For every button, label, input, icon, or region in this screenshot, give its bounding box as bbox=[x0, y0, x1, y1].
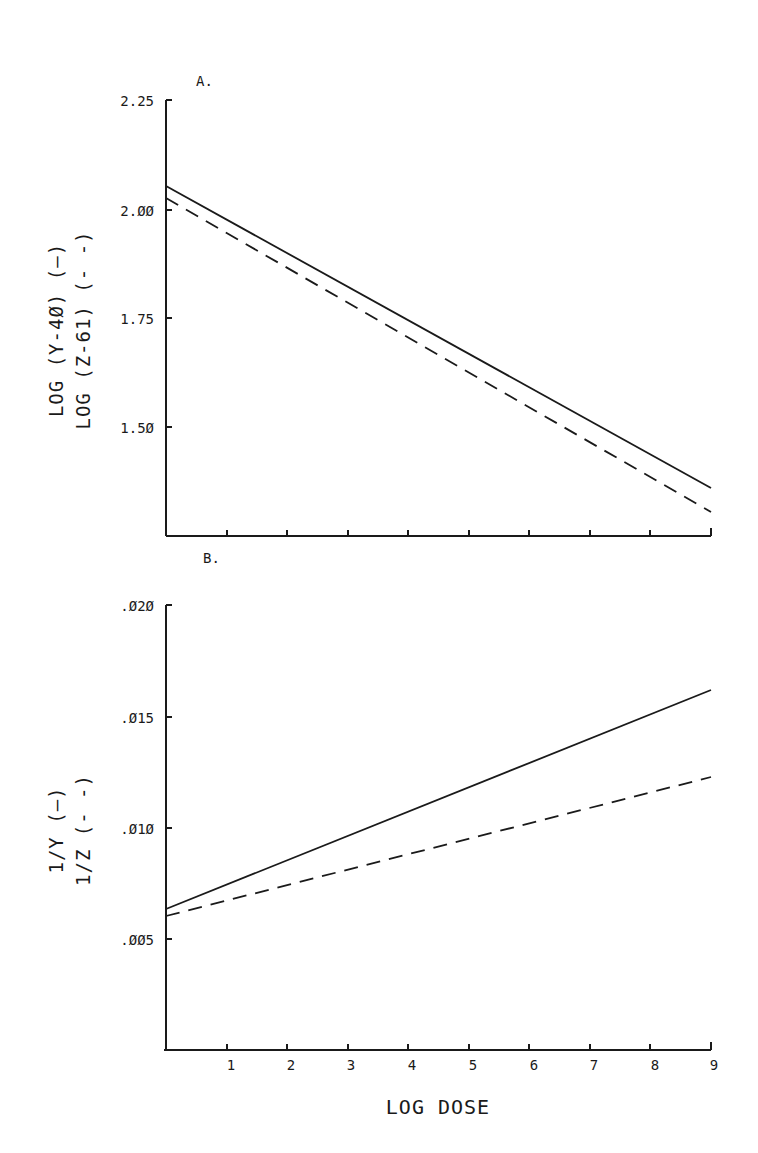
panel-b-xtick-label: 7 bbox=[590, 1057, 598, 1073]
panel-b-xtick-label: 1 bbox=[227, 1057, 235, 1073]
panel-a-series-y40-solid bbox=[166, 186, 711, 488]
panel-a-ytick-label: 2.ØØ bbox=[120, 203, 154, 219]
panel-b-xtick-label: 9 bbox=[710, 1057, 718, 1073]
panel-b-ylabel-1z: 1/Z (- -) bbox=[72, 774, 94, 886]
panel-a-ytick-label: 2.25 bbox=[120, 93, 154, 109]
panel-a-label: A. bbox=[196, 73, 213, 89]
panel-a-ytick-label: 1.75 bbox=[120, 311, 154, 327]
panel-a-ylabel-y40: LOG (Y-4Ø) (—) bbox=[45, 243, 67, 417]
panel-b-ytick-label: .ØØ5 bbox=[120, 932, 154, 948]
panel-b-series-1y-solid bbox=[166, 690, 711, 909]
panel-b: B. .Ø2Ø .Ø15 .Ø1Ø .ØØ5 1 2 3 4 5 6 7 bbox=[45, 550, 718, 1073]
panel-a-ytick-label: 1.5Ø bbox=[120, 420, 154, 436]
panel-b-ytick-label: .Ø15 bbox=[120, 710, 154, 726]
panel-b-xtick-label: 8 bbox=[651, 1057, 659, 1073]
panel-a: A. 2.25 2.ØØ 1.75 1.5Ø LOG (Y-4Ø) (—) bbox=[45, 73, 711, 536]
panel-b-ytick-label: .Ø2Ø bbox=[120, 598, 154, 614]
panel-a-ylabel-z61: LOG (Z-61) (- -) bbox=[72, 230, 94, 429]
panel-b-xtick-label: 2 bbox=[287, 1057, 295, 1073]
x-axis-title: LOG DOSE bbox=[386, 1095, 490, 1119]
figure: A. 2.25 2.ØØ 1.75 1.5Ø LOG (Y-4Ø) (—) bbox=[0, 0, 758, 1153]
panel-b-xtick-label: 6 bbox=[530, 1057, 538, 1073]
panel-a-series-z61-dashed bbox=[166, 198, 711, 512]
panel-b-xtick-label: 3 bbox=[347, 1057, 355, 1073]
panel-b-ytick-label: .Ø1Ø bbox=[120, 821, 154, 837]
panel-b-xtick-label: 4 bbox=[408, 1057, 416, 1073]
panel-b-ylabel-1y: 1/Y (—) bbox=[45, 786, 67, 873]
panel-a-xticks bbox=[227, 528, 711, 536]
panel-b-xtick-label: 5 bbox=[469, 1057, 477, 1073]
panel-b-xticks bbox=[227, 1042, 711, 1050]
panel-b-series-1z-dashed bbox=[166, 777, 711, 916]
panel-b-label: B. bbox=[203, 550, 220, 566]
